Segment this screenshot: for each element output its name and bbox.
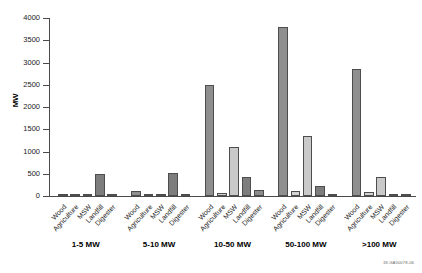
y-tick: 500 <box>43 174 49 175</box>
bar-group <box>131 18 190 196</box>
y-tick: 0 <box>43 196 49 197</box>
y-tick: 3000 <box>43 63 49 64</box>
y-tick-label: 4000 <box>23 13 40 22</box>
y-tick-label: 500 <box>27 169 40 178</box>
bar <box>168 173 178 196</box>
y-tick: 2000 <box>43 107 49 108</box>
plot-area: 05001000150020002500300035004000 <box>49 18 416 197</box>
bar-group <box>352 18 411 196</box>
bar <box>401 194 411 196</box>
bar <box>131 191 141 196</box>
y-tick: 1000 <box>43 152 49 153</box>
bar <box>156 194 166 196</box>
footnote-code: 18-GA50078-06 <box>383 260 414 265</box>
bar <box>254 190 264 196</box>
bar <box>229 147 239 196</box>
bar <box>376 177 386 196</box>
bar <box>278 27 288 196</box>
bar <box>83 194 93 196</box>
y-tick-label: 1000 <box>23 147 40 156</box>
group-label: >100 MW <box>343 240 416 249</box>
bar <box>70 194 80 196</box>
bar-group <box>278 18 337 196</box>
bar <box>328 194 338 196</box>
y-tick: 3500 <box>43 40 49 41</box>
y-tick: 4000 <box>43 18 49 19</box>
bar <box>315 186 325 196</box>
bar <box>303 136 313 196</box>
bar <box>181 194 191 196</box>
bar-group <box>58 18 117 196</box>
y-tick: 1500 <box>43 129 49 130</box>
bar <box>144 194 154 196</box>
y-axis-line <box>49 18 50 197</box>
y-tick-label: 2000 <box>23 102 40 111</box>
bar <box>291 191 301 196</box>
y-tick-label: 3000 <box>23 58 40 67</box>
group-label: 10-50 MW <box>196 240 269 249</box>
bar <box>217 193 227 196</box>
bar <box>107 194 117 196</box>
y-axis-label: MW <box>11 86 20 116</box>
bar-chart: MW 05001000150020002500300035004000 Wood… <box>0 0 422 273</box>
bar <box>364 192 374 196</box>
bar <box>389 194 399 196</box>
x-axis-line <box>49 196 416 197</box>
group-label: 5-10 MW <box>122 240 195 249</box>
y-tick-label: 0 <box>36 191 40 200</box>
bar <box>352 69 362 196</box>
bar <box>205 85 215 196</box>
y-tick-label: 2500 <box>23 80 40 89</box>
bar-group <box>205 18 264 196</box>
y-tick-label: 1500 <box>23 124 40 133</box>
bar <box>242 177 252 196</box>
group-label: 50-100 MW <box>269 240 342 249</box>
group-label: 1-5 MW <box>49 240 122 249</box>
y-tick-label: 3500 <box>23 35 40 44</box>
bar <box>95 174 105 196</box>
bar <box>58 194 68 196</box>
y-tick: 2500 <box>43 85 49 86</box>
